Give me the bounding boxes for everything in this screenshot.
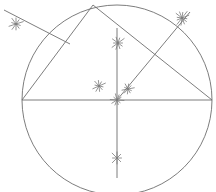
figure-background — [0, 0, 216, 192]
geometry-figure: Compass and straightedge construction: t… — [0, 0, 216, 192]
